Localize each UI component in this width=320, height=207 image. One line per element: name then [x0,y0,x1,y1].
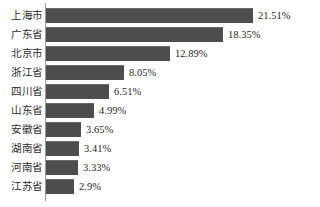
bar-row[interactable]: 安徽省3.65% [0,122,320,141]
bar[interactable] [46,160,78,175]
bar-group: 3.33% [46,160,110,175]
bar-group: 12.89% [46,46,207,61]
bar-row[interactable]: 浙江省8.05% [0,65,320,84]
bar-value-label: 2.9% [79,179,101,194]
bar-value-label: 3.33% [83,160,110,175]
category-label: 上海市 [11,8,42,23]
bar[interactable] [46,84,109,99]
category-label: 广东省 [11,27,42,42]
category-label: 湖南省 [11,141,42,156]
bar-row[interactable]: 四川省6.51% [0,84,320,103]
bar-group: 8.05% [46,65,156,80]
plot-area: 上海市21.51%广东省18.35%北京市12.89%浙江省8.05%四川省6.… [0,8,320,198]
bar-value-label: 3.41% [84,141,111,156]
category-label: 江苏省 [11,179,42,194]
category-label: 北京市 [11,46,42,61]
bar-row[interactable]: 山东省4.99% [0,103,320,122]
bar-value-label: 18.35% [228,27,260,42]
bar-group: 4.99% [46,103,126,118]
bar-value-label: 12.89% [175,46,207,61]
category-label: 山东省 [11,103,42,118]
bar[interactable] [46,65,124,80]
bar[interactable] [46,122,81,137]
bar[interactable] [46,179,74,194]
category-label: 四川省 [11,84,42,99]
bar-value-label: 8.05% [129,65,156,80]
category-label: 安徽省 [11,122,42,137]
bar-row[interactable]: 上海市21.51% [0,8,320,27]
bar-group: 21.51% [46,8,290,23]
bar-value-label: 3.65% [86,122,113,137]
bar-row[interactable]: 江苏省2.9% [0,179,320,198]
bar-row[interactable]: 北京市12.89% [0,46,320,65]
bar[interactable] [46,27,223,42]
bar-group: 6.51% [46,84,141,99]
category-label: 浙江省 [11,65,42,80]
bar-value-label: 21.51% [258,8,290,23]
bar[interactable] [46,141,79,156]
bar[interactable] [46,103,94,118]
bar-value-label: 6.51% [114,84,141,99]
bar-row[interactable]: 河南省3.33% [0,160,320,179]
bar-chart: 上海市21.51%广东省18.35%北京市12.89%浙江省8.05%四川省6.… [0,0,320,207]
bar-row[interactable]: 湖南省3.41% [0,141,320,160]
bar[interactable] [46,46,170,61]
category-label: 河南省 [11,160,42,175]
bar-value-label: 4.99% [99,103,126,118]
bar-row[interactable]: 广东省18.35% [0,27,320,46]
bar-group: 3.65% [46,122,113,137]
bar-group: 3.41% [46,141,111,156]
bar-group: 18.35% [46,27,260,42]
bar[interactable] [46,8,253,23]
bar-group: 2.9% [46,179,101,194]
